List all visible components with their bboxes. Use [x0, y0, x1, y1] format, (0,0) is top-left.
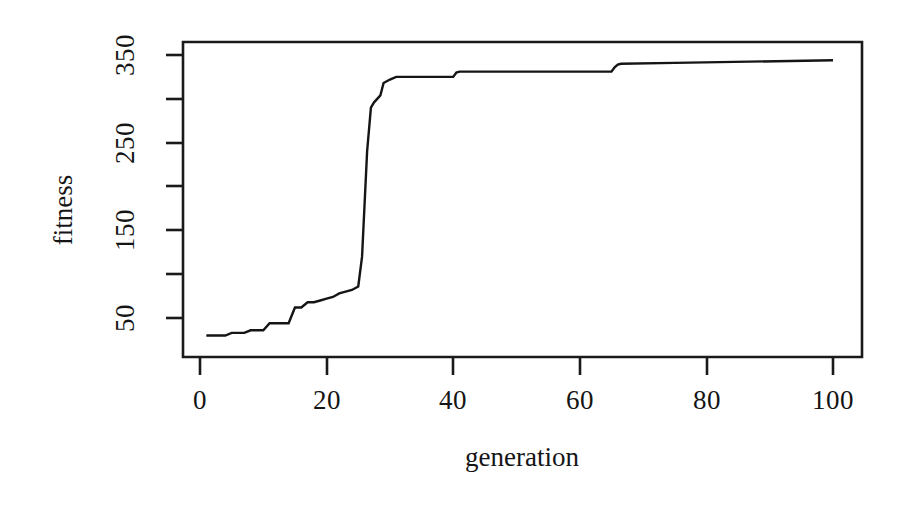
- y-tick-label-50: 50: [110, 304, 140, 332]
- y-tick-label-150: 150: [110, 209, 140, 251]
- y-axis-title: fitness: [48, 175, 78, 246]
- data-series-group: [206, 60, 833, 335]
- x-axis-title: generation: [465, 442, 579, 472]
- best-fitness-line: [206, 60, 833, 335]
- x-axis-tick-labels: 0 20 40 60 80 100: [193, 385, 854, 415]
- x-tick-label-0: 0: [193, 385, 207, 415]
- y-tick-label-350: 350: [110, 34, 140, 76]
- x-tick-label-60: 60: [566, 385, 594, 415]
- x-tick-label-100: 100: [812, 385, 854, 415]
- fitness-generation-line-chart: 350 250 150 50 0 20 40 60 80 100 fitness…: [0, 0, 905, 526]
- chart-figure: 350 250 150 50 0 20 40 60 80 100 fitness…: [0, 0, 905, 526]
- plot-frame: [183, 42, 862, 357]
- x-tick-label-40: 40: [439, 385, 467, 415]
- x-tick-label-20: 20: [313, 385, 341, 415]
- x-axis-ticks: [200, 357, 833, 375]
- x-tick-label-80: 80: [693, 385, 721, 415]
- y-tick-label-250: 250: [110, 122, 140, 164]
- y-axis-tick-labels: 350 250 150 50: [110, 34, 140, 332]
- y-axis-ticks: [166, 55, 183, 318]
